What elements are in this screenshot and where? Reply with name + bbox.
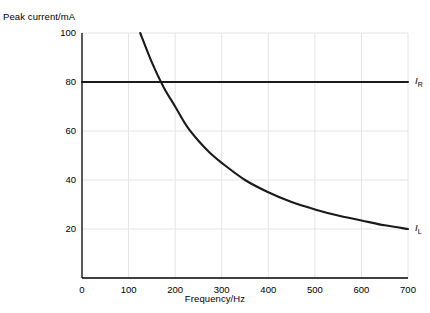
x-axis-title: Frequency/Hz	[0, 293, 430, 304]
gridlines	[82, 33, 408, 278]
series-label-i-l: IL	[415, 222, 422, 235]
y-tick-label: 100	[48, 27, 76, 38]
series-label-subscript: R	[418, 81, 423, 88]
series-label-i-r: IR	[415, 75, 423, 88]
y-tick-label: 60	[48, 125, 76, 136]
axes	[82, 33, 408, 278]
plot-svg	[0, 0, 430, 313]
series-label-subscript: L	[418, 228, 422, 235]
y-tick-label: 80	[48, 76, 76, 87]
chart-container: Peak current/mA 20406080100 010020030040…	[0, 0, 430, 313]
y-tick-label: 40	[48, 174, 76, 185]
y-tick-label: 20	[48, 223, 76, 234]
